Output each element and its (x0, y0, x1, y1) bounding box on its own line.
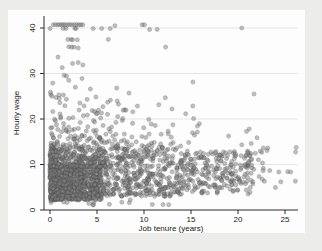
data-point (72, 127, 76, 131)
data-point (106, 182, 110, 186)
data-point (76, 46, 80, 50)
data-point (113, 182, 117, 186)
data-point (94, 112, 98, 116)
data-point (277, 170, 281, 174)
data-point (87, 202, 91, 206)
x-tick-label-25: 25 (281, 215, 290, 224)
data-point (70, 164, 74, 168)
data-point (191, 179, 195, 183)
data-point (210, 164, 214, 168)
data-point (261, 146, 265, 150)
data-point (145, 148, 149, 152)
data-point (61, 142, 65, 146)
data-point (249, 171, 253, 175)
data-point (156, 149, 160, 153)
data-point (147, 132, 151, 136)
data-point (224, 151, 228, 155)
data-point (115, 99, 119, 103)
data-point (85, 97, 89, 101)
data-point (63, 162, 67, 166)
data-point (128, 198, 132, 202)
data-point (193, 188, 197, 192)
data-point (163, 187, 167, 191)
data-point (215, 189, 219, 193)
data-point (100, 138, 104, 142)
data-point (223, 167, 227, 171)
y-tick-label-40: 40 (28, 23, 37, 32)
data-point (181, 187, 185, 191)
data-point (233, 152, 237, 156)
data-point (139, 170, 143, 174)
data-point (110, 142, 114, 146)
data-point (67, 116, 71, 120)
data-point (88, 174, 92, 178)
data-point (57, 93, 61, 97)
data-point (110, 125, 114, 129)
data-point (85, 113, 89, 117)
data-point (81, 189, 85, 193)
data-point (133, 191, 137, 195)
data-point (92, 203, 96, 207)
data-point (107, 139, 111, 143)
data-point (100, 111, 104, 115)
data-point (193, 184, 197, 188)
data-point (129, 154, 133, 158)
data-point (257, 175, 261, 179)
data-point (82, 104, 86, 108)
data-point (154, 180, 158, 184)
data-point (261, 161, 265, 165)
data-point (112, 188, 116, 192)
data-point (74, 27, 78, 31)
data-point (93, 182, 97, 186)
data-point (104, 171, 108, 175)
data-point (127, 91, 131, 95)
data-point (220, 178, 224, 182)
data-point (240, 26, 244, 30)
data-point (202, 189, 206, 193)
y-tick-label-30: 30 (28, 69, 37, 78)
data-point (115, 86, 119, 90)
data-point (123, 183, 127, 187)
data-point (169, 135, 173, 139)
data-point (186, 163, 190, 167)
data-point (124, 142, 128, 146)
data-point (108, 130, 112, 134)
data-point (97, 197, 101, 201)
data-point (84, 177, 88, 181)
data-point (131, 186, 135, 190)
data-point (49, 181, 53, 185)
data-point (107, 164, 111, 168)
data-point (166, 147, 170, 151)
data-point (122, 132, 126, 136)
data-point (190, 172, 194, 176)
data-point (125, 176, 129, 180)
data-point (157, 103, 161, 107)
data-point (81, 114, 85, 118)
data-point (214, 157, 218, 161)
data-point (67, 78, 71, 82)
data-point (158, 153, 162, 157)
data-point (253, 151, 257, 155)
data-point (147, 117, 151, 121)
data-point (49, 190, 53, 194)
data-point (136, 175, 140, 179)
data-point (239, 168, 243, 172)
data-point (107, 202, 111, 206)
data-point (161, 175, 165, 179)
data-point (131, 150, 135, 154)
data-point (185, 188, 189, 192)
data-point (192, 166, 196, 170)
data-point (230, 160, 234, 164)
data-point (169, 142, 173, 146)
data-point (55, 123, 59, 127)
data-point (293, 179, 297, 183)
data-point (179, 152, 183, 156)
data-point (168, 181, 172, 185)
data-point (205, 175, 209, 179)
data-point (240, 143, 244, 147)
data-point (88, 87, 92, 91)
data-point (294, 145, 298, 149)
data-point (256, 158, 260, 162)
data-point (195, 170, 199, 174)
data-point (244, 188, 248, 192)
